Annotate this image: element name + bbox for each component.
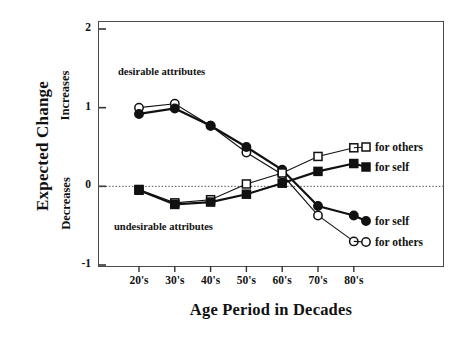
y-tick-label-1: 1: [69, 100, 91, 112]
annotation-desirable-attributes: desirable attributes: [118, 66, 205, 77]
chart-figure: Expected Change Increases Decreases 2 1 …: [0, 0, 472, 338]
legend-label-self-desirable: for self: [375, 161, 409, 173]
x-tick-label-60s: 60's: [262, 274, 302, 286]
x-tick-label-20s: 20's: [119, 274, 159, 286]
y-axis-title: Expected Change: [33, 41, 53, 251]
x-tick-label-40s: 40's: [191, 274, 231, 286]
legend-label-others-desirable: for others: [375, 141, 423, 153]
legend-label-others-undesirable: for others: [375, 236, 423, 248]
y-tick-label-0: 0: [69, 178, 91, 190]
annotation-undesirable-attributes: undesirable attributes: [114, 221, 213, 232]
legend-label-self-undesirable: for self: [375, 215, 409, 227]
y-axis-upper-label: Increases: [58, 51, 73, 141]
y-axis-lower-label: Decreases: [59, 159, 74, 249]
x-tick-label-70s: 70's: [298, 274, 338, 286]
x-tick-label-80s: 80's: [334, 274, 374, 286]
x-axis-title: Age Period in Decades: [98, 300, 444, 320]
x-tick-label-30s: 30's: [155, 274, 195, 286]
x-tick-label-50s: 50's: [226, 274, 266, 286]
y-tick-label-2: 2: [69, 21, 91, 33]
y-tick-label-neg1: -1: [69, 257, 91, 269]
